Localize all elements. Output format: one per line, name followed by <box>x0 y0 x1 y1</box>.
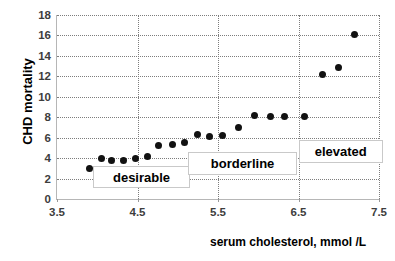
y-tick-label: 6 <box>45 132 51 144</box>
x-tick-label: 7.5 <box>371 206 387 218</box>
data-point <box>86 165 93 172</box>
y-tick-label: 12 <box>38 70 51 82</box>
x-tick-label: 5.5 <box>210 206 226 218</box>
chd-mortality-scatter-chart: CHD mortality 0246810121416183.54.55.56.… <box>0 0 395 261</box>
category-label-borderline: borderline <box>188 152 297 174</box>
y-axis-title: CHD mortality <box>20 32 35 172</box>
y-tick-label: 8 <box>45 111 51 123</box>
x-tick-mark <box>57 199 58 202</box>
plot-area: 0246810121416183.54.55.56.57.5desirableb… <box>56 15 379 200</box>
data-point <box>281 113 288 120</box>
y-tick-label: 10 <box>38 91 51 103</box>
y-tick-label: 2 <box>45 173 51 185</box>
category-label-desirable: desirable <box>93 166 190 188</box>
x-tick-mark <box>299 199 300 202</box>
category-label-elevated: elevated <box>299 140 384 162</box>
y-tick-label: 18 <box>38 9 51 21</box>
x-tick-label: 3.5 <box>49 206 65 218</box>
x-tick-mark <box>218 199 219 202</box>
data-point <box>144 153 151 160</box>
data-point <box>319 71 326 78</box>
data-point <box>301 113 308 120</box>
y-tick-label: 14 <box>38 50 51 62</box>
y-tick-label: 4 <box>45 152 51 164</box>
data-point <box>235 124 242 131</box>
x-tick-label: 6.5 <box>291 206 307 218</box>
gridline-vertical <box>379 15 380 199</box>
data-point <box>132 155 139 162</box>
data-point <box>335 64 342 71</box>
y-tick-label: 0 <box>45 193 51 205</box>
y-tick-label: 16 <box>38 29 51 41</box>
data-point <box>181 139 188 146</box>
gridline-vertical <box>299 15 300 199</box>
data-point <box>251 112 258 119</box>
data-point <box>267 113 274 120</box>
data-point <box>351 31 358 38</box>
data-point <box>155 142 162 149</box>
x-tick-mark <box>138 199 139 202</box>
x-axis-title: serum cholesterol, mmol /L <box>210 235 366 249</box>
data-point <box>120 157 127 164</box>
x-tick-mark <box>379 199 380 202</box>
data-point <box>108 157 115 164</box>
x-tick-label: 4.5 <box>130 206 146 218</box>
data-point <box>98 155 105 162</box>
data-point <box>169 141 176 148</box>
data-point <box>194 131 201 138</box>
